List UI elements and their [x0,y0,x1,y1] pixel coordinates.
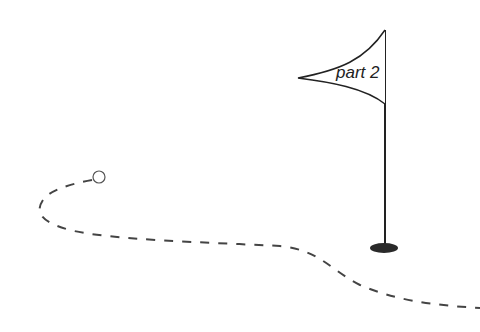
flag-label: part 2 [335,63,380,82]
golf-diagram: part 2 [0,0,480,332]
ball-trajectory-dashed-path [40,180,480,308]
golf-hole [370,243,398,253]
golf-ball [93,171,105,183]
